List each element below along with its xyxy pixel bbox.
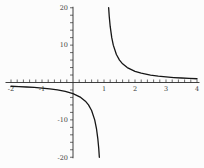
y-tick-label: -20 [58,154,68,162]
function-plot-figure: -2-112342010-10-20 [0,0,204,168]
y-tick-label: 10 [60,41,68,49]
y-tick-label: 20 [60,4,68,12]
x-tick-label: 4 [195,85,199,93]
y-tick-label: -10 [58,116,68,124]
x-tick-label: -1 [39,85,45,93]
x-tick-label: 3 [164,85,168,93]
x-tick-label: 1 [102,85,106,93]
plot-canvas: -2-112342010-10-20 [0,0,204,168]
curve-right-branch [109,8,197,79]
curve-left-branch [11,86,99,157]
x-tick-label: 2 [133,85,137,93]
